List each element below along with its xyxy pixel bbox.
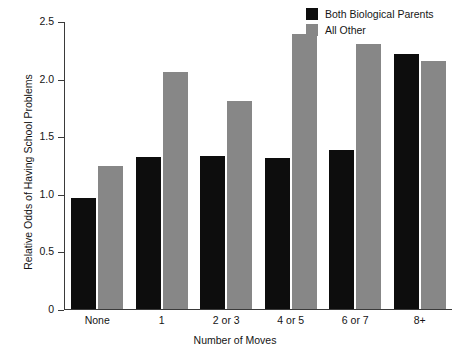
y-axis-tick-label: 0.5 — [39, 245, 54, 258]
y-axis-tick: 2.5 — [58, 22, 64, 23]
bar-all-other[interactable] — [356, 44, 381, 309]
bar-both-biological-parents[interactable] — [265, 158, 290, 309]
bar-group — [65, 22, 130, 309]
x-axis-tick-label: 8+ — [388, 314, 453, 326]
chart-figure: Both Biological Parents All Other 00.51.… — [0, 0, 470, 358]
bar-both-biological-parents[interactable] — [136, 157, 161, 309]
x-axis-tick-label: 4 or 5 — [259, 314, 324, 326]
y-axis-tick-label: 2.0 — [39, 73, 54, 86]
x-axis-tick-label: None — [65, 314, 130, 326]
x-axis-tick-labels: None12 or 34 or 56 or 78+ — [65, 314, 452, 326]
y-axis-title: Relative Odds of Having School Problems — [22, 57, 34, 287]
bar-both-biological-parents[interactable] — [71, 198, 96, 309]
bar-all-other[interactable] — [98, 166, 123, 309]
x-axis-title: Number of Moves — [0, 334, 470, 346]
bar-group — [259, 22, 324, 309]
bar-group — [388, 22, 453, 309]
legend-swatch-black — [306, 8, 318, 20]
x-axis-tick-label: 2 or 3 — [194, 314, 259, 326]
x-axis-line — [64, 309, 452, 310]
y-axis-tick-label: 2.5 — [39, 15, 54, 28]
bar-group — [194, 22, 259, 309]
bar-both-biological-parents[interactable] — [329, 150, 354, 309]
bar-both-biological-parents[interactable] — [394, 54, 419, 309]
bar-all-other[interactable] — [421, 61, 446, 309]
y-axis-tick: 1.5 — [58, 137, 64, 138]
legend-item-both-biological-parents: Both Biological Parents — [306, 7, 434, 20]
bar-group — [130, 22, 195, 309]
y-axis-tick: 1.0 — [58, 195, 64, 196]
bar-all-other[interactable] — [163, 72, 188, 309]
x-axis-tick-label: 6 or 7 — [323, 314, 388, 326]
y-axis-tick-label: 0 — [48, 303, 54, 316]
bar-all-other[interactable] — [227, 101, 252, 310]
legend-label-both-biological-parents: Both Biological Parents — [325, 8, 434, 20]
plot-area: 00.51.01.52.02.5 — [64, 22, 452, 310]
y-axis-tick: 0 — [58, 310, 64, 311]
bar-groups — [65, 22, 452, 309]
bar-both-biological-parents[interactable] — [200, 156, 225, 309]
y-axis-tick: 2.0 — [58, 80, 64, 81]
y-axis-tick-label: 1.5 — [39, 130, 54, 143]
bar-group — [323, 22, 388, 309]
y-axis-tick-label: 1.0 — [39, 188, 54, 201]
y-axis-tick: 0.5 — [58, 252, 64, 253]
bar-all-other[interactable] — [292, 34, 317, 309]
x-axis-tick-label: 1 — [130, 314, 195, 326]
